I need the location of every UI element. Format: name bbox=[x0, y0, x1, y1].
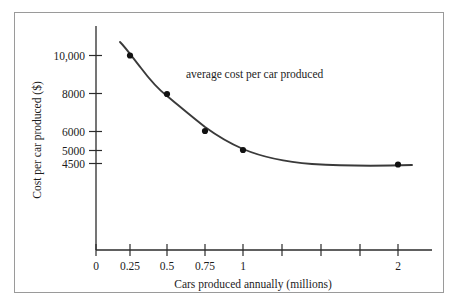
chart-canvas: 10,000 8000 6000 5000 4500 0 0.25 0.5 0.… bbox=[0, 0, 464, 307]
y-tick-label-8000: 8000 bbox=[62, 88, 85, 100]
x-tick-labels: 0 0.25 0.5 0.75 1 2 bbox=[93, 260, 401, 272]
x-tick-label-0.25: 0.25 bbox=[120, 260, 140, 272]
cost-curve bbox=[120, 42, 412, 166]
y-tick-label-5000: 5000 bbox=[62, 145, 85, 157]
y-tick-label-6000: 6000 bbox=[62, 126, 85, 138]
y-axis-title: Cost per car produced ($) bbox=[31, 81, 44, 199]
x-tick-label-0.75: 0.75 bbox=[195, 260, 215, 272]
data-point-2 bbox=[395, 161, 401, 167]
y-tick-label-4500: 4500 bbox=[62, 158, 85, 170]
data-point-0.25 bbox=[127, 52, 133, 58]
data-point-0.75 bbox=[202, 128, 208, 134]
x-tick-label-0: 0 bbox=[93, 260, 99, 272]
x-tick-label-2: 2 bbox=[395, 260, 401, 272]
figure-container: 10,000 8000 6000 5000 4500 0 0.25 0.5 0.… bbox=[0, 0, 464, 307]
x-tick-label-1: 1 bbox=[240, 260, 246, 272]
data-point-0.5 bbox=[164, 91, 170, 97]
y-tick-labels: 10,000 8000 6000 5000 4500 bbox=[53, 50, 85, 170]
y-tick-label-10000: 10,000 bbox=[53, 50, 85, 63]
x-axis-title: Cars produced annually (millions) bbox=[174, 278, 332, 291]
x-tick-label-0.5: 0.5 bbox=[160, 260, 175, 272]
data-point-1 bbox=[240, 147, 246, 153]
curve-annotation: average cost per car produced bbox=[186, 68, 324, 81]
